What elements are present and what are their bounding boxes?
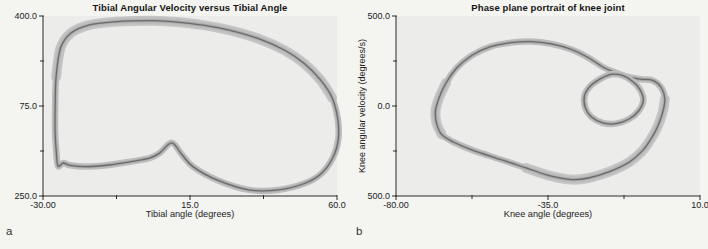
svg-text:500.0: 500.0 (367, 11, 390, 21)
panel-a-letter: a (6, 225, 12, 237)
panel-b-letter: b (356, 225, 362, 237)
panel-a-title: Tibial Angular Velocity versus Tibial An… (43, 2, 337, 13)
panel-b-y-axis-label: Knee angular velocity (degrees/s) (356, 14, 368, 198)
svg-text:0.0: 0.0 (377, 101, 390, 111)
panel-a-x-axis-label: Tibial angle (degrees) (43, 209, 337, 219)
panel-b-title: Phase plane portrait of knee joint (396, 2, 700, 13)
svg-text:400.0: 400.0 (14, 11, 37, 21)
panel-a: -30.0015.060.0400.075.0250.0 Tibial Angu… (0, 0, 354, 249)
svg-text:500.0: 500.0 (367, 191, 390, 201)
svg-text:250.0: 250.0 (14, 191, 37, 201)
svg-text:75.0: 75.0 (19, 101, 37, 111)
panel-b: -80.00-35.010.0500.00.0500.0 Knee angula… (354, 0, 708, 249)
panel-b-x-axis-label: Knee angle (degrees) (396, 209, 700, 219)
phase-plane-figure: -30.0015.060.0400.075.0250.0 Tibial Angu… (0, 0, 708, 249)
